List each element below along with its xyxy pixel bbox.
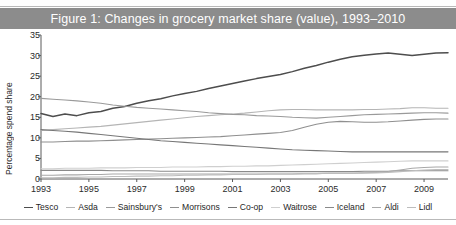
legend-swatch-icon — [66, 207, 75, 208]
chart-legend: TescoAsdaSainsbury'sMorrisonsCo-opWaitro… — [0, 200, 456, 214]
x-axis-tick-label: 2009 — [414, 184, 434, 194]
series-line-morrisons — [41, 119, 448, 142]
x-axis-tick-label: 1999 — [175, 184, 195, 194]
legend-swatch-icon — [407, 207, 416, 208]
legend-label: Waitrose — [283, 202, 317, 212]
axis-tickmarks — [38, 35, 424, 182]
legend-label: Co-op — [240, 202, 263, 212]
x-axis-tick-label: 2005 — [318, 184, 338, 194]
x-axis-tick-label: 2007 — [366, 184, 386, 194]
legend-item-sainsbury-s[interactable]: Sainsbury's — [106, 202, 162, 212]
x-axis-tick-label: 2001 — [223, 184, 243, 194]
data-series-group — [41, 53, 448, 178]
legend-item-aldi[interactable]: Aldi — [372, 202, 398, 212]
series-line-tesco — [41, 53, 448, 117]
legend-swatch-icon — [170, 207, 179, 208]
axis-lines — [41, 35, 448, 179]
legend-label: Tesco — [36, 202, 58, 212]
figure-container: Figure 1: Changes in grocery market shar… — [0, 0, 456, 225]
figure-caption: Figure 1: Changes in grocery market shar… — [51, 12, 406, 26]
legend-label: Iceland — [337, 202, 365, 212]
legend-label: Lidl — [419, 202, 432, 212]
legend-swatch-icon — [372, 207, 381, 208]
series-line-sainsbury-s — [41, 98, 448, 118]
series-line-waitrose — [41, 161, 448, 169]
legend-label: Aldi — [384, 202, 398, 212]
x-axis-tick-label: 1995 — [79, 184, 99, 194]
legend-item-lidl[interactable]: Lidl — [407, 202, 432, 212]
legend-swatch-icon — [271, 207, 280, 208]
legend-label: Asda — [78, 202, 98, 212]
legend-label: Sainsbury's — [118, 202, 162, 212]
legend-label: Morrisons — [182, 202, 220, 212]
legend-item-tesco[interactable]: Tesco — [24, 202, 58, 212]
legend-item-co-op[interactable]: Co-op — [228, 202, 263, 212]
plot-area: Percentage spend share 05101520253035 19… — [0, 29, 456, 225]
legend-swatch-icon — [228, 207, 237, 208]
legend-item-morrisons[interactable]: Morrisons — [170, 202, 220, 212]
x-axis-tick-label: 2003 — [270, 184, 290, 194]
x-axis-labels: 199319951997199920012003200520072009 — [0, 184, 456, 198]
bottom-divider — [0, 219, 456, 220]
legend-item-waitrose[interactable]: Waitrose — [271, 202, 317, 212]
legend-swatch-icon — [106, 207, 115, 208]
legend-item-iceland[interactable]: Iceland — [325, 202, 365, 212]
legend-swatch-icon — [24, 207, 33, 208]
x-axis-tick-label: 1997 — [127, 184, 147, 194]
top-divider — [0, 6, 456, 7]
legend-swatch-icon — [325, 207, 334, 208]
figure-caption-band: Figure 1: Changes in grocery market shar… — [0, 8, 456, 29]
legend-item-asda[interactable]: Asda — [66, 202, 98, 212]
x-axis-tick-label: 1993 — [31, 184, 51, 194]
